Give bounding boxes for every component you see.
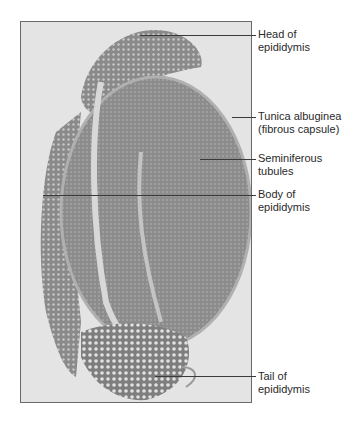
- label-tunica-albuginea: Tunica albuginea (fibrous capsule): [258, 110, 341, 136]
- label-head-line1: Head of: [258, 28, 310, 41]
- label-body-of-epididymis: Body of epididymis: [258, 188, 310, 214]
- label-head-of-epididymis: Head of epididymis: [258, 28, 310, 54]
- label-body-line2: epididymis: [258, 201, 310, 214]
- label-tail-line1: Tail of: [258, 370, 310, 383]
- leader-line-tunica: [232, 117, 256, 118]
- leader-line-body: [43, 195, 256, 196]
- label-tunica-line1: Tunica albuginea: [258, 110, 341, 123]
- leader-line-head: [140, 35, 256, 36]
- tissue-section-image: [21, 22, 251, 402]
- label-seminiferous-line1: Seminiferous: [258, 152, 322, 165]
- label-tail-line2: epididymis: [258, 383, 310, 396]
- label-tunica-line2: (fibrous capsule): [258, 123, 341, 136]
- micrograph-frame: [20, 21, 252, 403]
- label-seminiferous-line2: tubules: [258, 165, 322, 178]
- label-head-line2: epididymis: [258, 41, 310, 54]
- leader-line-tail: [155, 376, 256, 377]
- label-tail-of-epididymis: Tail of epididymis: [258, 370, 310, 396]
- label-seminiferous-tubules: Seminiferous tubules: [258, 152, 322, 178]
- label-body-line1: Body of: [258, 188, 310, 201]
- leader-line-seminiferous: [200, 159, 256, 160]
